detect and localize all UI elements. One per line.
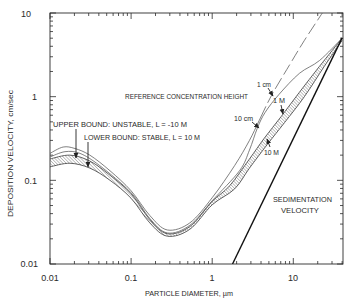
deposition-velocity-chart: 10 1 0.1 0.01 0.01 0.1 1 10 PARTICLE DIA… (0, 0, 351, 303)
y-tick-label-0-1: 0.1 (24, 176, 37, 186)
sedimentation-label-line1: SEDIMENTATION (273, 195, 332, 204)
label-1m: 1 M (273, 96, 285, 105)
y-tick-label-0-01: 0.01 (20, 259, 38, 269)
x-axis-title: PARTICLE DIAMETER, µm (145, 289, 233, 298)
label-1cm: 1 cm (257, 80, 271, 89)
chart-svg: 10 1 0.1 0.01 0.01 0.1 1 10 PARTICLE DIA… (0, 0, 351, 303)
label-10cm: 10 cm (234, 114, 253, 123)
y-tick-label-1: 1 (32, 92, 37, 102)
label-10m: 10 M (264, 148, 279, 157)
lower-bound-annotation: LOWER BOUND: STABLE, L = 10 M (84, 133, 200, 142)
x-tick-label-1: 1 (209, 273, 214, 283)
x-tick-label-0-01: 0.01 (41, 273, 59, 283)
y-tick-label-10: 10 (21, 9, 31, 19)
x-tick-label-10: 10 (288, 273, 298, 283)
arrow-1m-icon (281, 105, 283, 114)
x-tick-label-0-1: 0.1 (125, 273, 138, 283)
arrow-1cm-icon (268, 88, 273, 96)
reference-height-annotation: REFERENCE CONCENTRATION HEIGHT (125, 92, 248, 101)
y-axis-title: DEPOSITION VELOCITY, cm/sec (6, 90, 15, 217)
upper-bound-annotation: UPPER BOUND: UNSTABLE, L = -10 M (53, 120, 187, 129)
sedimentation-label-line2: VELOCITY (281, 206, 320, 215)
